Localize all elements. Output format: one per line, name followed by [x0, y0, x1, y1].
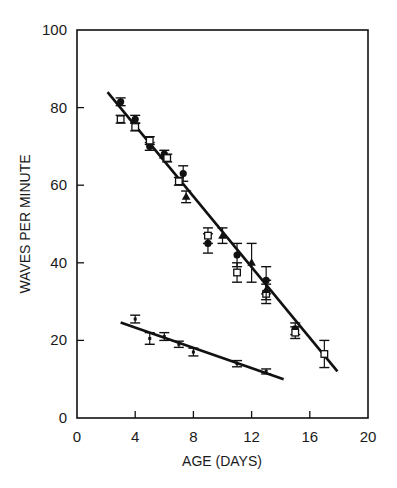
open-square-marker	[117, 116, 124, 123]
x-axis-label: AGE (DAYS)	[182, 453, 262, 469]
small-marker	[236, 362, 239, 365]
open-square-marker	[292, 329, 299, 336]
y-tick-label: 60	[50, 176, 67, 193]
small-marker	[192, 351, 195, 354]
filled-circle-marker	[233, 251, 240, 258]
chart: 048121620 020406080100 AGE (DAYS) WAVES …	[0, 0, 397, 488]
filled-circle-marker	[117, 98, 124, 105]
open-square-marker	[321, 351, 328, 358]
open-square-marker	[176, 178, 183, 185]
x-tick-label: 12	[243, 428, 260, 445]
y-tick-label: 0	[59, 409, 67, 426]
small-marker	[148, 337, 151, 340]
x-tick-label: 8	[189, 428, 197, 445]
x-tick-label: 16	[301, 428, 318, 445]
small-marker	[163, 335, 166, 338]
open-square-marker	[205, 232, 212, 239]
open-square-marker	[164, 155, 171, 162]
y-tick-label: 20	[50, 331, 67, 348]
open-square-marker	[146, 137, 153, 144]
y-tick-label: 80	[50, 99, 67, 116]
filled-circle-marker	[180, 170, 187, 177]
x-tick-label: 20	[360, 428, 377, 445]
small-marker	[177, 343, 180, 346]
y-tick-label: 40	[50, 254, 67, 271]
small-marker	[134, 318, 137, 321]
y-axis-label: WAVES PER MINUTE	[17, 154, 33, 293]
x-tick-label: 0	[73, 428, 81, 445]
x-tick-label: 4	[131, 428, 139, 445]
filled-circle-marker	[132, 116, 139, 123]
open-square-marker	[132, 124, 139, 131]
open-square-marker	[234, 269, 241, 276]
y-tick-label: 100	[42, 21, 67, 38]
small-marker	[265, 370, 268, 373]
